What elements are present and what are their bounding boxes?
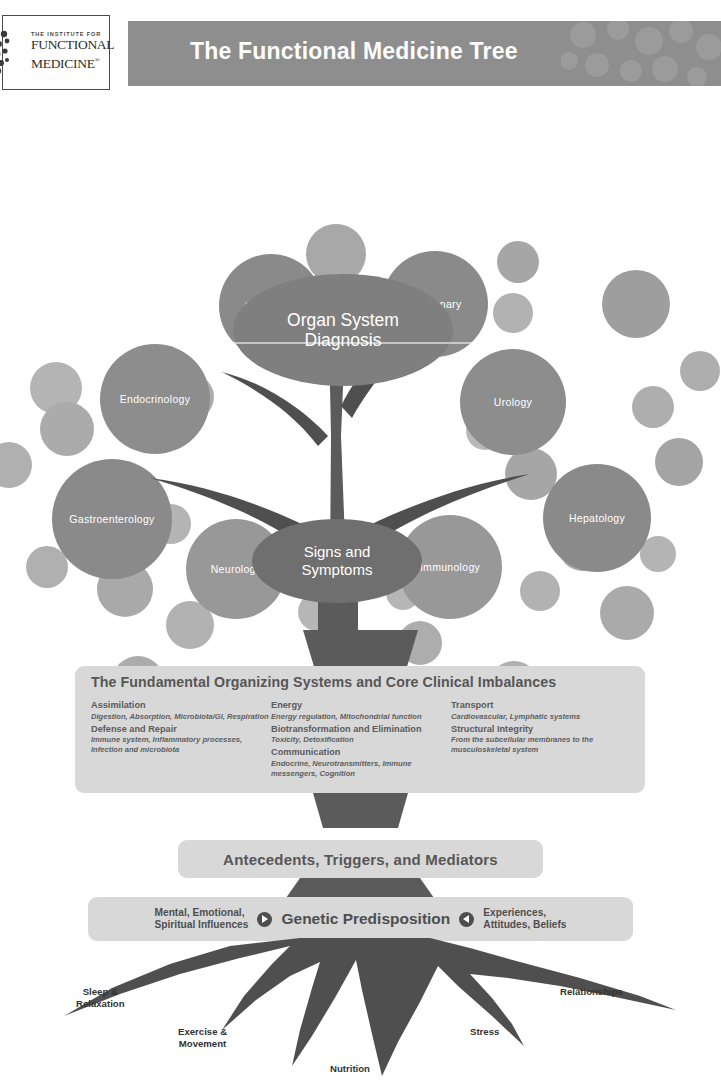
ifm-logo-text: THE INSTITUTE FOR FUNCTIONAL MEDICINE® (31, 30, 109, 71)
genetic-predisposition-label: Genetic Predisposition (281, 910, 450, 928)
banner-bubble-decoration-icon (561, 21, 721, 86)
signs-symptoms-line2: Symptoms (302, 561, 373, 579)
mental-emotional-spiritual-label: Mental, Emotional, Spiritual Influences (154, 907, 248, 932)
system-group-title: Communication (271, 746, 451, 759)
fundamental-column: TransportCardiovascular, Lymphatic syste… (451, 699, 631, 780)
root-label-line1: Relationships (560, 986, 623, 998)
organ-system-diagnosis-node: Organ System Diagnosis (233, 274, 453, 386)
signs-symptoms-line1: Signs and (304, 543, 371, 561)
ifm-logo-mark-icon (0, 30, 27, 74)
root-label-line1: Exercise & (178, 1026, 227, 1038)
system-group-description: Cardiovascular, Lymphatic systems (451, 712, 631, 722)
arrow-left-icon (459, 912, 474, 927)
organ-system-line2: Diagnosis (305, 330, 382, 350)
ifm-logo: THE INSTITUTE FOR FUNCTIONAL MEDICINE® (2, 15, 110, 90)
system-group-description: From the subcellular membranes to the mu… (451, 735, 631, 755)
system-group-title: Defense and Repair (91, 723, 271, 736)
page-title: The Functional Medicine Tree (190, 38, 518, 65)
genetic-row: Mental, Emotional, Spiritual Influences … (88, 897, 633, 941)
root-label-relationships: Relationships (560, 986, 623, 998)
genetic-predisposition-panel: Mental, Emotional, Spiritual Influences … (88, 897, 633, 941)
title-banner: The Functional Medicine Tree (128, 21, 721, 86)
system-group-title: Transport (451, 699, 631, 712)
ifm-logo-line-functional: FUNCTIONAL (31, 38, 109, 53)
system-group-description: Digestion, Absorption, Microbiota/GI, Re… (91, 712, 271, 722)
system-group-description: Toxicity, Detoxification (271, 735, 451, 745)
signs-and-symptoms-node: Signs and Symptoms (252, 519, 422, 603)
root-label-nutrition: Nutrition (330, 1063, 370, 1075)
system-group-title: Biotransformation and Elimination (271, 723, 451, 736)
functional-medicine-tree-infographic: THE INSTITUTE FOR FUNCTIONAL MEDICINE® (0, 0, 721, 1085)
mental-emotional-line2: Spiritual Influences (154, 919, 248, 932)
root-label-line2: Relaxation (76, 998, 125, 1010)
organ-system-line1: Organ System (287, 310, 399, 330)
fundamental-columns: AssimilationDigestion, Absorption, Micro… (91, 699, 631, 780)
root-label-exercise: Exercise &Movement (178, 1026, 227, 1050)
root-label-line2: Movement (178, 1038, 227, 1050)
mental-emotional-line1: Mental, Emotional, (154, 907, 248, 920)
root-label-line1: Sleep & (76, 986, 125, 998)
fundamental-panel-title: The Fundamental Organizing Systems and C… (91, 674, 556, 690)
antecedents-label: Antecedents, Triggers, and Mediators (178, 840, 543, 878)
system-group-title: Assimilation (91, 699, 271, 712)
fundamental-column: AssimilationDigestion, Absorption, Micro… (91, 699, 271, 780)
tree-canopy: CardiologyPulmonaryEndocrinologyUrologyG… (0, 106, 721, 646)
antecedents-panel: Antecedents, Triggers, and Mediators (178, 840, 543, 878)
root-label-line1: Stress (470, 1026, 499, 1038)
root-label-stress: Stress (470, 1026, 499, 1038)
ifm-logo-line-medicine: MEDICINE® (31, 53, 109, 71)
tree-roots: Sleep &RelaxationExercise &MovementNutri… (0, 938, 721, 1085)
system-group-description: Energy regulation, Mitochondrial functio… (271, 712, 451, 722)
root-label-line1: Nutrition (330, 1063, 370, 1075)
system-group-description: Immune system, Inflammatory processes, I… (91, 735, 271, 755)
system-group-description: Endocrine, Neurotransmitters, Immune mes… (271, 759, 451, 779)
header: THE INSTITUTE FOR FUNCTIONAL MEDICINE® (0, 0, 721, 106)
system-group-title: Structural Integrity (451, 723, 631, 736)
system-group-title: Energy (271, 699, 451, 712)
experiences-line1: Experiences, (483, 907, 566, 920)
fundamental-systems-panel: The Fundamental Organizing Systems and C… (75, 666, 645, 793)
arrow-right-icon (257, 912, 272, 927)
experiences-attitudes-beliefs-label: Experiences, Attitudes, Beliefs (483, 907, 566, 932)
experiences-line2: Attitudes, Beliefs (483, 919, 566, 932)
fundamental-column: EnergyEnergy regulation, Mitochondrial f… (271, 699, 451, 780)
root-label-sleep: Sleep &Relaxation (76, 986, 125, 1010)
